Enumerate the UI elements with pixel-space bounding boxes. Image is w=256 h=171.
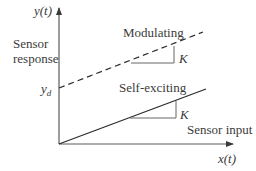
- self-exciting-slope-k: K: [179, 107, 190, 122]
- sensor-response-diagram: y(t) Sensor response yd Modulating K Sel…: [0, 0, 256, 171]
- y-axis-description-line1: Sensor: [13, 36, 49, 51]
- y-axis-label: y(t): [32, 3, 52, 18]
- self-exciting-label: Self-exciting: [119, 80, 187, 95]
- intercept-label: yd: [39, 81, 52, 98]
- modulating-label: Modulating: [123, 25, 184, 40]
- modulating-slope-k: K: [178, 51, 189, 66]
- diagram-svg: y(t) Sensor response yd Modulating K Sel…: [0, 0, 256, 171]
- x-axis-label: x(t): [217, 151, 236, 166]
- y-axis-description-line2: response: [13, 51, 59, 66]
- x-axis-description: Sensor input: [187, 122, 253, 137]
- modulating-slope-triangle: [131, 46, 174, 63]
